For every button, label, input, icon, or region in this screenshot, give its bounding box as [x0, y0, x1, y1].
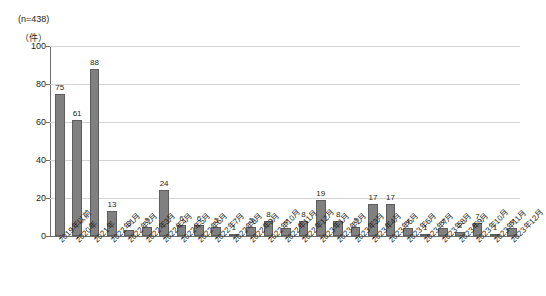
bar[interactable]: 24: [159, 46, 169, 236]
bar-value-label: 17: [386, 194, 395, 202]
bar[interactable]: 1: [229, 46, 239, 236]
bar[interactable]: 4: [281, 46, 291, 236]
bar[interactable]: 5: [246, 46, 256, 236]
x-axis-tick-labels: 2019年以前2020年2021年2022年1月2022年2月2022年3月20…: [51, 238, 520, 296]
bar[interactable]: 4: [438, 46, 448, 236]
y-axis-tick-mark: [46, 84, 50, 85]
bar-value-label: 19: [316, 190, 325, 198]
bar-rect: [55, 94, 65, 237]
bar[interactable]: 8: [299, 46, 309, 236]
bar[interactable]: 8: [264, 46, 274, 236]
bar[interactable]: 19: [316, 46, 326, 236]
bar[interactable]: 1: [490, 46, 500, 236]
y-axis-tick-mark: [46, 198, 50, 199]
bar[interactable]: 88: [90, 46, 100, 236]
bar-series: 75618813352466515848198517174142714: [51, 46, 520, 236]
y-axis-tick-mark: [46, 160, 50, 161]
y-axis-tick-label: 100: [20, 42, 46, 51]
y-axis-tick-mark: [46, 236, 50, 237]
bar[interactable]: 61: [72, 46, 82, 236]
bar[interactable]: 5: [351, 46, 361, 236]
bar-value-label: 88: [90, 59, 99, 67]
bar[interactable]: 17: [386, 46, 396, 236]
bar-rect: [90, 69, 100, 236]
bar[interactable]: 8: [333, 46, 343, 236]
bar[interactable]: 17: [368, 46, 378, 236]
bar[interactable]: 7: [473, 46, 483, 236]
bar[interactable]: 1: [420, 46, 430, 236]
bar[interactable]: 75: [55, 46, 65, 236]
bar[interactable]: 5: [142, 46, 152, 236]
y-axis-tick-label: 0: [20, 232, 46, 241]
bar[interactable]: 6: [194, 46, 204, 236]
bar[interactable]: 4: [507, 46, 517, 236]
bar[interactable]: 5: [211, 46, 221, 236]
sample-size-note: (n=438): [18, 14, 49, 24]
y-axis-tick-label: 20: [20, 194, 46, 203]
y-axis-tick-mark: [46, 122, 50, 123]
bar[interactable]: 2: [455, 46, 465, 236]
y-axis-tick-mark: [46, 46, 50, 47]
y-axis-tick-label: 40: [20, 156, 46, 165]
bar-value-label: 13: [107, 201, 116, 209]
y-axis-tick-labels: 020406080100: [14, 46, 46, 236]
bar-value-label: 24: [160, 180, 169, 188]
bar[interactable]: 6: [177, 46, 187, 236]
bar[interactable]: 4: [403, 46, 413, 236]
bar-value-label: 17: [369, 194, 378, 202]
bar[interactable]: 3: [124, 46, 134, 236]
bar-value-label: 75: [55, 84, 64, 92]
bar-value-label: 61: [73, 110, 82, 118]
y-axis-tick-label: 60: [20, 118, 46, 127]
bar[interactable]: 13: [107, 46, 117, 236]
y-axis-tick-label: 80: [20, 80, 46, 89]
